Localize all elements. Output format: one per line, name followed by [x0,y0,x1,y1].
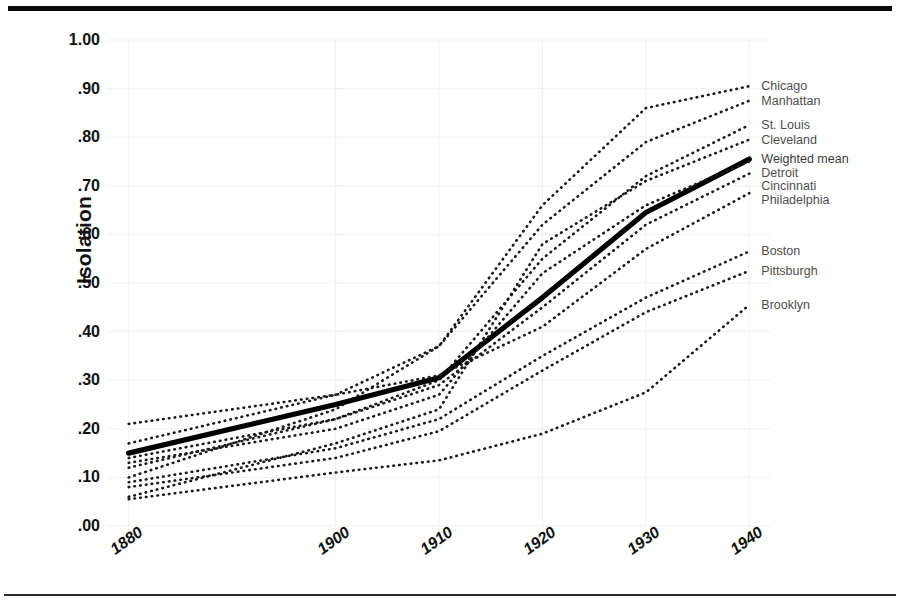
series-label-chicago: Chicago [761,80,807,93]
bottom-rule [4,594,896,596]
series-label-detroit: Detroit [761,167,798,180]
y-tick-label: .70 [44,178,100,194]
gridlines [108,40,770,526]
series-label-philadelphia: Philadelphia [761,194,829,207]
y-tick-label: .30 [44,372,100,388]
series-label-pittsburgh: Pittsburgh [761,265,817,278]
x-tick-label: 1880 [107,523,146,558]
y-tick-label: .60 [44,226,100,242]
x-tick-label: 1910 [417,523,456,558]
x-tick-label: 1940 [727,523,766,558]
y-tick-label: 1.00 [44,32,100,48]
series-label-brooklyn: Brooklyn [761,299,810,312]
x-tick-label: 1930 [624,523,663,558]
series-label-st-louis: St. Louis [761,119,810,132]
y-tick-label: .80 [44,129,100,145]
x-tick-label: 1900 [314,523,353,558]
series-label-manhattan: Manhattan [761,95,820,108]
series-label-cleveland: Cleveland [761,134,817,147]
y-tick-label: .40 [44,324,100,340]
plot-area [108,40,770,526]
series-canvas [108,40,770,526]
y-tick-label: .00 [44,518,100,534]
figure-isolation-trends: Isolation 1.00.90.80.70.60.50.40.30.20.1… [0,0,900,604]
top-rule [8,6,892,11]
series-label-boston: Boston [761,245,800,258]
series-label-cincinnati: Cincinnati [761,180,816,193]
x-tick-label: 1920 [520,523,559,558]
y-tick-label: .90 [44,81,100,97]
series-label-weighted-mean: Weighted mean [761,153,848,166]
y-axis-tick-labels: 1.00.90.80.70.60.50.40.30.20.10.00 [44,0,100,604]
y-tick-label: .10 [44,469,100,485]
y-tick-label: .50 [44,275,100,291]
y-tick-label: .20 [44,421,100,437]
